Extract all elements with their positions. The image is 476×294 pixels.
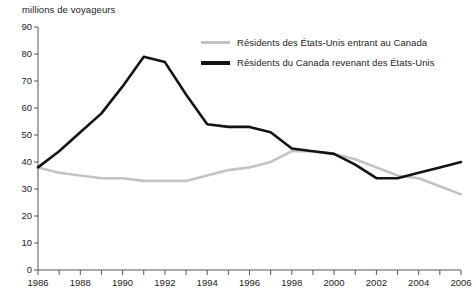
- y-tick-label: 40: [8, 157, 32, 167]
- y-tick-label: 60: [8, 103, 32, 113]
- x-tick-label: 1996: [230, 278, 270, 288]
- x-tick-label: 1986: [18, 278, 58, 288]
- legend-item-canada-residents-returning-from-us: Résidents du Canada revenant des États-U…: [201, 57, 435, 68]
- x-tick-label: 2006: [441, 278, 476, 288]
- y-tick-label: 70: [8, 76, 32, 86]
- x-tick-label: 1994: [187, 278, 227, 288]
- x-tick-label: 1992: [145, 278, 185, 288]
- y-tick-label: 10: [8, 238, 32, 248]
- x-tick-label: 1988: [60, 278, 100, 288]
- legend-item-us-residents-entering-canada: Résidents des États-Unis entrant au Cana…: [201, 37, 435, 48]
- y-tick-label: 90: [8, 22, 32, 32]
- x-tick-label: 1998: [272, 278, 312, 288]
- legend-label: Résidents du Canada revenant des États-U…: [237, 57, 435, 68]
- y-tick-label: 30: [8, 184, 32, 194]
- legend-swatch-grey-line-icon: [201, 41, 230, 44]
- x-tick-label: 2002: [356, 278, 396, 288]
- x-tick-label: 2000: [314, 278, 354, 288]
- legend-label: Résidents des États-Unis entrant au Cana…: [237, 37, 427, 48]
- series-lines: [38, 57, 461, 195]
- x-tick-label: 2004: [399, 278, 439, 288]
- y-tick-label: 20: [8, 211, 32, 221]
- chart-legend: Résidents des États-Unis entrant au Cana…: [201, 37, 435, 68]
- x-tick-label: 1990: [103, 278, 143, 288]
- y-tick-label: 0: [8, 265, 32, 275]
- legend-swatch-black-line-icon: [201, 61, 230, 65]
- series-line-0: [38, 151, 461, 194]
- y-tick-label: 80: [8, 49, 32, 59]
- y-tick-label: 50: [8, 130, 32, 140]
- series-line-1: [38, 57, 461, 179]
